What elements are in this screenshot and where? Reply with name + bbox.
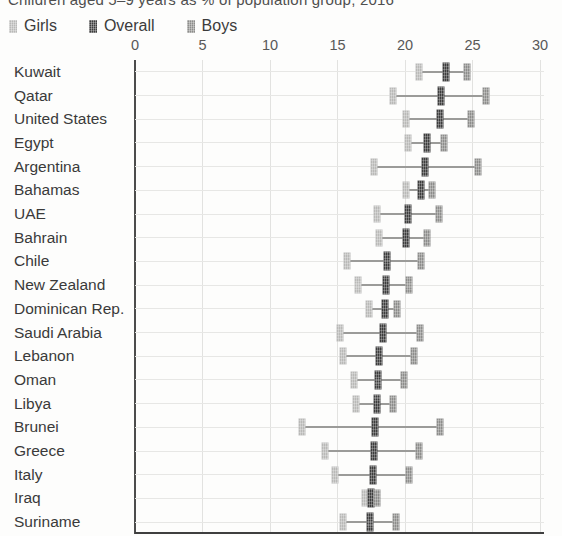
category-label: Argentina (14, 158, 80, 176)
row-gridline (135, 498, 544, 499)
boys-marker (483, 87, 490, 104)
girls-marker (403, 111, 410, 128)
overall-marker (403, 228, 410, 247)
overall-swatch-icon (89, 20, 97, 33)
row-gridline (135, 261, 544, 262)
boys-marker (423, 229, 430, 246)
chart-title: Children aged 5–9 years as % of populati… (8, 0, 394, 8)
row-gridline (135, 403, 544, 404)
legend-item-girls: Girls (9, 17, 57, 35)
girls-marker (354, 277, 361, 294)
x-axis-tick-label: 10 (262, 37, 278, 53)
girls-marker (403, 182, 410, 199)
row-gridline (135, 285, 544, 286)
girls-marker (331, 466, 338, 483)
x-axis-tick-label: 20 (397, 37, 413, 53)
overall-marker (373, 394, 380, 413)
row-gridline (135, 190, 544, 191)
overall-marker (366, 513, 373, 532)
x-axis-tick-label: 0 (131, 37, 139, 53)
boys-marker (393, 300, 400, 317)
girls-marker (365, 300, 372, 317)
row-gridline (135, 166, 544, 167)
row-gridline (135, 142, 544, 143)
girls-marker (370, 158, 377, 175)
overall-marker (376, 347, 383, 366)
boys-marker (418, 253, 425, 270)
row-gridline (135, 308, 544, 309)
boys-marker (435, 206, 442, 223)
legend-label-boys: Boys (202, 17, 238, 35)
overall-marker (442, 62, 449, 81)
overall-marker (422, 157, 429, 176)
overall-marker (384, 252, 391, 271)
overall-marker (383, 276, 390, 295)
girls-marker (322, 443, 329, 460)
category-label: Greece (14, 442, 65, 460)
boys-marker (429, 182, 436, 199)
x-axis-tick-label: 25 (464, 37, 480, 53)
x-axis-tick-label: 30 (532, 37, 548, 53)
category-label: UAE (14, 205, 46, 223)
category-label: Dominican Rep. (14, 300, 124, 318)
girls-marker (343, 253, 350, 270)
row-gridline (135, 379, 544, 380)
gridline-vertical (540, 60, 541, 534)
category-label: Italy (14, 466, 42, 484)
girls-marker (299, 419, 306, 436)
legend-item-overall: Overall (89, 17, 155, 35)
boys-marker (468, 111, 475, 128)
boys-marker (406, 466, 413, 483)
overall-marker (380, 323, 387, 342)
overall-marker (418, 181, 425, 200)
boys-marker (392, 514, 399, 531)
gridline-vertical (405, 60, 406, 534)
overall-marker (404, 205, 411, 224)
category-label: United States (14, 110, 107, 128)
row-gridline (135, 237, 544, 238)
gridline-vertical (270, 60, 271, 534)
zero-axis-line (134, 60, 136, 534)
boys-swatch-icon (187, 20, 195, 33)
girls-marker (339, 514, 346, 531)
category-label: Egypt (14, 134, 54, 152)
girls-marker (376, 229, 383, 246)
girls-marker (373, 206, 380, 223)
category-label: Chile (14, 252, 49, 270)
girls-marker (339, 348, 346, 365)
overall-marker (370, 442, 377, 461)
overall-marker (369, 465, 376, 484)
legend-item-boys: Boys (187, 17, 238, 35)
girls-marker (353, 395, 360, 412)
boys-marker (389, 395, 396, 412)
girls-marker (337, 324, 344, 341)
category-label: New Zealand (14, 276, 105, 294)
legend-label-overall: Overall (104, 17, 155, 35)
gridline-vertical (472, 60, 473, 534)
overall-marker (375, 370, 382, 389)
category-label: Bahamas (14, 181, 79, 199)
girls-marker (350, 371, 357, 388)
category-label: Kuwait (14, 63, 61, 81)
category-label: Iraq (14, 489, 41, 507)
category-label: Qatar (14, 87, 53, 105)
row-gridline (135, 214, 544, 215)
boys-marker (400, 371, 407, 388)
x-axis-baseline (135, 532, 544, 534)
girls-marker (415, 63, 422, 80)
girls-swatch-icon (9, 20, 17, 33)
category-label: Libya (14, 395, 51, 413)
category-label: Brunei (14, 418, 59, 436)
girls-marker (389, 87, 396, 104)
boys-marker (373, 490, 380, 507)
boys-marker (406, 277, 413, 294)
boys-marker (464, 63, 471, 80)
row-gridline (135, 119, 544, 120)
category-label: Bahrain (14, 229, 67, 247)
x-axis-tick-label: 15 (329, 37, 345, 53)
overall-marker (437, 110, 444, 129)
category-label: Oman (14, 371, 56, 389)
overall-marker (372, 418, 379, 437)
gridline-vertical (337, 60, 338, 534)
boys-marker (416, 324, 423, 341)
